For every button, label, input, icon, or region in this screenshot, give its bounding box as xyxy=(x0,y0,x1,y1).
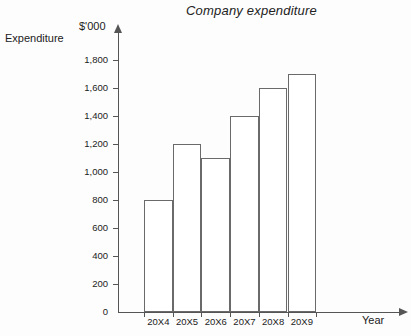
y-tick-label: 600 xyxy=(48,222,108,233)
y-tick-mark xyxy=(113,172,118,173)
y-tick-mark xyxy=(113,144,118,145)
bar-chart: Company expenditure Expenditure $'000 Ye… xyxy=(0,0,411,336)
bar-20X9 xyxy=(288,74,317,312)
y-axis-arrow-icon xyxy=(114,24,122,33)
y-tick-label: 0 xyxy=(48,306,108,317)
y-tick-label: 1,400 xyxy=(48,110,108,121)
y-axis-line xyxy=(118,32,119,313)
y-tick-mark xyxy=(113,256,118,257)
y-tick-label: 1,200 xyxy=(48,138,108,149)
x-axis-arrow-icon xyxy=(399,308,408,316)
chart-title: Company expenditure xyxy=(186,3,317,18)
bar-20X8 xyxy=(259,88,288,312)
bar-20X4 xyxy=(144,200,173,312)
y-tick-mark xyxy=(113,60,118,61)
y-tick-label: 400 xyxy=(48,250,108,261)
y-tick-mark xyxy=(113,116,118,117)
x-axis-title: Year xyxy=(362,314,384,326)
y-tick-mark xyxy=(113,284,118,285)
x-tick-label: 20X9 xyxy=(282,316,322,327)
y-tick-mark xyxy=(113,88,118,89)
bar-20X5 xyxy=(173,144,202,312)
y-tick-label: 1,800 xyxy=(48,54,108,65)
bar-20X7 xyxy=(230,116,259,312)
y-tick-mark xyxy=(113,200,118,201)
y-tick-mark xyxy=(113,228,118,229)
y-tick-label: 1,000 xyxy=(48,166,108,177)
y-tick-label: 200 xyxy=(48,278,108,289)
y-axis-title: Expenditure xyxy=(5,32,64,44)
y-tick-label: 1,600 xyxy=(48,82,108,93)
y-axis-unit-label: $'000 xyxy=(79,20,106,32)
y-tick-label: 800 xyxy=(48,194,108,205)
bar-20X6 xyxy=(201,158,230,312)
